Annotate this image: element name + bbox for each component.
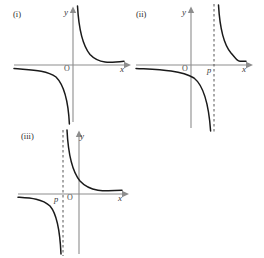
panel-iii: (iii) y x O p bbox=[0, 128, 160, 258]
panel-ii-curve-lower-left bbox=[136, 68, 211, 131]
panel-ii-y-axis-label: y bbox=[182, 7, 186, 17]
panel-ii-x-axis-arrowhead bbox=[246, 62, 253, 68]
panel-i: (i) y x O bbox=[0, 0, 132, 130]
panel-iii-curve-lower-left bbox=[18, 197, 61, 254]
panel-i-y-axis-arrowhead bbox=[70, 7, 76, 14]
panel-iii-x-axis-label: x bbox=[118, 193, 122, 203]
panel-iii-asymptote-label: p bbox=[54, 194, 58, 204]
panel-ii-curve-upper-right bbox=[219, 5, 247, 61]
panel-iii-origin-label: O bbox=[67, 193, 73, 202]
panel-ii-origin-label: O bbox=[182, 64, 188, 73]
panel-iii-y-axis-label: y bbox=[80, 131, 84, 141]
panel-i-x-axis-label: x bbox=[120, 64, 124, 74]
panel-i-y-axis-label: y bbox=[64, 7, 68, 17]
panel-ii-asymptote-label: p bbox=[207, 65, 211, 75]
panel-i-curve-lower-left bbox=[14, 69, 69, 124]
math-figure: (i) y x O (ii) bbox=[0, 0, 264, 258]
panel-ii-y-axis-arrowhead bbox=[188, 7, 194, 14]
panel-i-x-axis-arrowhead bbox=[124, 62, 131, 68]
panel-iii-plot bbox=[0, 128, 160, 258]
panel-ii: (ii) y x O p bbox=[132, 0, 264, 135]
panel-i-curve-upper-right bbox=[78, 6, 125, 62]
panel-iii-x-axis-arrowhead bbox=[122, 191, 129, 197]
panel-i-origin-label: O bbox=[64, 64, 70, 73]
panel-ii-x-axis-label: x bbox=[242, 64, 246, 74]
panel-iii-curve-upper-right bbox=[67, 130, 122, 191]
